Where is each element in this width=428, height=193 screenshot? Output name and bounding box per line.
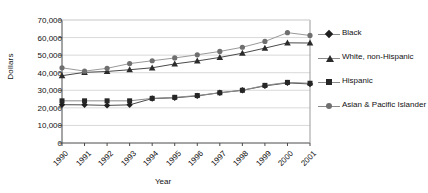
legend-symbol-triangle-icon xyxy=(326,55,334,62)
chart-figure: Dollars 010,00020,00030,00040,00050,0006… xyxy=(0,0,428,193)
x-axis-title: Year xyxy=(155,177,171,186)
legend-marker-triangle-icon xyxy=(318,53,340,65)
legend-label: Black xyxy=(340,28,362,38)
x-tick-label: 1991 xyxy=(74,149,93,168)
legend-item[interactable]: White, non-Hispanic xyxy=(318,52,428,66)
legend-marker-circle-icon xyxy=(318,101,340,113)
x-tick-label: 1993 xyxy=(119,149,138,168)
legend-symbol-circle-icon xyxy=(326,103,332,109)
x-tick-label: 1996 xyxy=(186,149,205,168)
x-tick-label: 1999 xyxy=(254,149,273,168)
x-tick-label: 2001 xyxy=(299,149,318,168)
x-tick-label: 1994 xyxy=(141,149,160,168)
x-tick-label: 1998 xyxy=(232,149,251,168)
legend-item[interactable]: Black xyxy=(318,28,428,42)
legend-symbol-square-icon xyxy=(326,79,332,85)
legend-item[interactable]: Asian & Pacific Islander xyxy=(318,100,428,114)
x-tick-label: 1990 xyxy=(51,149,70,168)
legend-marker-diamond-icon xyxy=(318,29,340,41)
chart-legend: BlackWhite, non-HispanicHispanicAsian & … xyxy=(318,28,428,124)
legend-symbol-diamond-icon xyxy=(325,30,333,38)
x-tick-label: 1995 xyxy=(164,149,183,168)
legend-marker-square-icon xyxy=(318,77,340,89)
legend-label: White, non-Hispanic xyxy=(340,52,414,62)
legend-label: Asian & Pacific Islander xyxy=(340,100,426,110)
x-tick-label: 1997 xyxy=(209,149,228,168)
x-tick-label: 2000 xyxy=(277,149,296,168)
x-tick-label: 1992 xyxy=(96,149,115,168)
legend-label: Hispanic xyxy=(340,76,373,86)
legend-item[interactable]: Hispanic xyxy=(318,76,428,90)
